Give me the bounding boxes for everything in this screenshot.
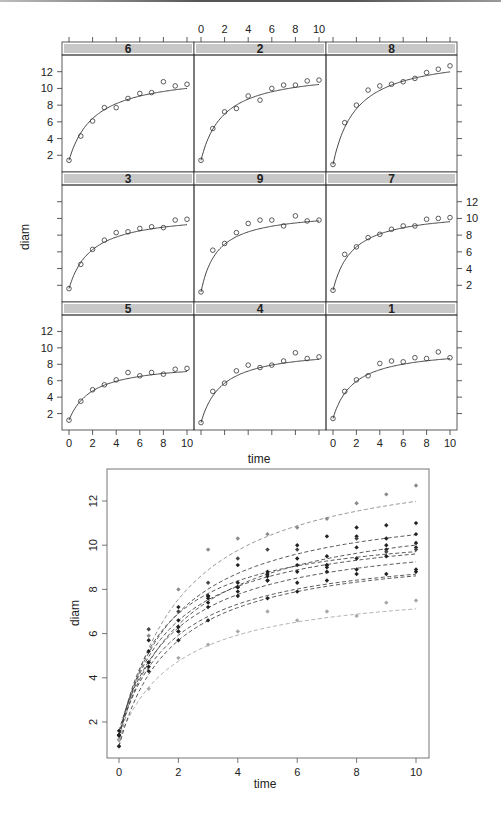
data-point bbox=[236, 589, 240, 593]
data-point bbox=[325, 609, 329, 613]
data-point bbox=[176, 629, 180, 633]
data-point bbox=[414, 541, 418, 545]
data-point bbox=[295, 543, 299, 547]
fit-curve-4 bbox=[119, 576, 416, 746]
data-point bbox=[354, 545, 358, 549]
data-point bbox=[265, 532, 269, 536]
data-point bbox=[384, 523, 388, 527]
data-point bbox=[295, 589, 299, 593]
fit-curve-8 bbox=[119, 501, 416, 746]
data-point bbox=[325, 578, 329, 582]
data-point bbox=[414, 547, 418, 551]
data-point bbox=[384, 572, 388, 576]
data-point bbox=[414, 483, 418, 487]
data-point bbox=[325, 534, 329, 538]
data-point bbox=[206, 581, 210, 585]
data-point bbox=[354, 525, 358, 529]
y-axis-label: diam bbox=[68, 600, 82, 626]
data-point bbox=[384, 600, 388, 604]
data-point bbox=[236, 536, 240, 540]
data-point bbox=[206, 605, 210, 609]
data-point bbox=[325, 563, 329, 567]
y-tick-label: 8 bbox=[87, 586, 99, 592]
y-tick-label: 2 bbox=[87, 719, 99, 725]
plot-frame bbox=[107, 469, 429, 758]
data-point bbox=[176, 656, 180, 660]
x-tick-label: 10 bbox=[410, 766, 422, 778]
data-point bbox=[176, 605, 180, 609]
data-point bbox=[236, 563, 240, 567]
y-tick-label: 6 bbox=[87, 631, 99, 637]
data-point bbox=[325, 554, 329, 558]
data-point bbox=[117, 744, 121, 748]
data-point bbox=[295, 547, 299, 551]
data-point bbox=[295, 556, 299, 560]
data-point bbox=[414, 598, 418, 602]
data-point bbox=[206, 547, 210, 551]
data-point bbox=[176, 609, 180, 613]
data-point bbox=[176, 587, 180, 591]
data-point bbox=[414, 570, 418, 574]
x-tick-label: 4 bbox=[235, 766, 241, 778]
data-point bbox=[384, 492, 388, 496]
data-point bbox=[147, 627, 151, 631]
y-tick-label: 10 bbox=[87, 539, 99, 551]
data-point bbox=[236, 556, 240, 560]
data-point bbox=[414, 532, 418, 536]
overlay-chart: 024681024681012timediam bbox=[0, 0, 501, 814]
data-point bbox=[295, 563, 299, 567]
x-axis-label: time bbox=[254, 777, 277, 791]
data-point bbox=[265, 572, 269, 576]
data-point bbox=[236, 594, 240, 598]
data-point bbox=[384, 550, 388, 554]
data-point bbox=[384, 543, 388, 547]
y-tick-label: 4 bbox=[87, 675, 99, 681]
data-point bbox=[265, 596, 269, 600]
fit-curve-2 bbox=[119, 535, 416, 736]
data-point bbox=[147, 634, 151, 638]
data-point bbox=[265, 547, 269, 551]
data-point bbox=[384, 536, 388, 540]
data-point bbox=[265, 609, 269, 613]
data-point bbox=[354, 536, 358, 540]
x-tick-label: 8 bbox=[354, 766, 360, 778]
data-point bbox=[414, 521, 418, 525]
data-point bbox=[236, 629, 240, 633]
x-tick-label: 0 bbox=[116, 766, 122, 778]
data-point bbox=[147, 638, 151, 642]
x-tick-label: 2 bbox=[175, 766, 181, 778]
data-point bbox=[147, 665, 151, 669]
data-point bbox=[295, 581, 299, 585]
fit-curve-3 bbox=[119, 562, 416, 731]
x-tick-label: 6 bbox=[294, 766, 300, 778]
y-tick-label: 12 bbox=[87, 495, 99, 507]
data-point bbox=[265, 578, 269, 582]
data-point bbox=[354, 572, 358, 576]
data-point bbox=[354, 501, 358, 505]
data-point bbox=[147, 687, 151, 691]
